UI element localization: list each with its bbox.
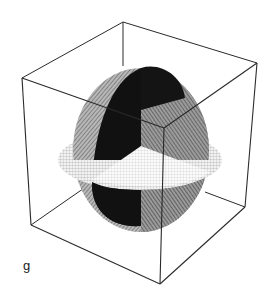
panel-label: g	[23, 258, 30, 273]
cube-disc-figure	[0, 0, 274, 305]
